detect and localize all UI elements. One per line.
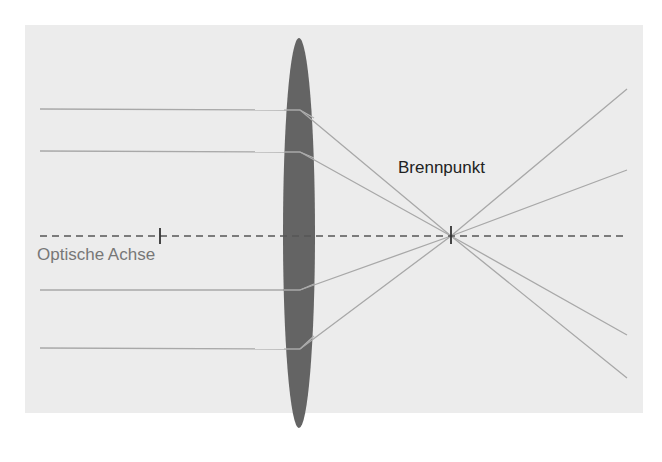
- ray-3-refracted: [300, 170, 627, 290]
- optical-axis-label: Optische Achse: [37, 245, 155, 265]
- ray-2-incoming: [40, 151, 300, 152]
- incoming-rays: [40, 109, 300, 349]
- ray-4-refracted: [300, 89, 627, 349]
- ray-1-incoming: [40, 109, 300, 110]
- lens-diagram: [0, 0, 662, 462]
- focal-point-label: Brennpunkt: [398, 158, 485, 178]
- ray-4-incoming: [40, 348, 300, 349]
- ray-1-refracted: [300, 110, 627, 378]
- refracted-rays: [300, 89, 627, 378]
- converging-lens: [283, 38, 315, 428]
- ray-2-refracted: [300, 152, 627, 335]
